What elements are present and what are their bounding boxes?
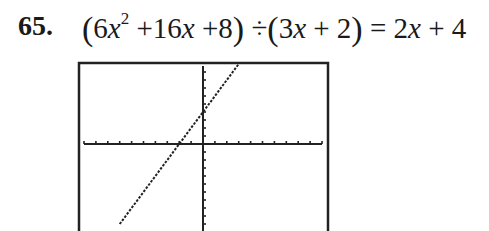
calculator-graph: [0, 0, 489, 231]
